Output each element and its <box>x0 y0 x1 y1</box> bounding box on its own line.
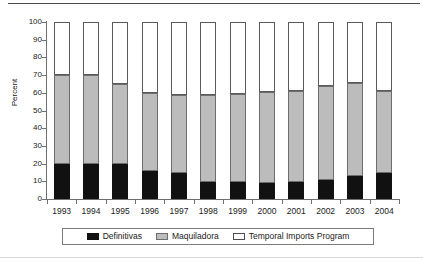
x-tick-label: 2003 <box>339 206 371 216</box>
black-square-icon <box>87 233 99 240</box>
bar-1993[interactable] <box>54 22 70 199</box>
x-tick-label: 1999 <box>222 206 254 216</box>
bar-1994[interactable] <box>83 22 99 199</box>
segment-temporal-imports-program[interactable] <box>347 22 363 83</box>
x-tick-mark <box>282 200 283 204</box>
x-tick-mark <box>223 200 224 204</box>
segment-temporal-imports-program[interactable] <box>259 22 275 92</box>
segment-maquiladora[interactable] <box>112 84 128 164</box>
segment-definitivas[interactable] <box>112 164 128 199</box>
segment-maquiladora[interactable] <box>171 95 187 173</box>
segment-definitivas[interactable] <box>171 173 187 199</box>
segment-temporal-imports-program[interactable] <box>200 22 216 95</box>
y-tick-mark <box>42 146 46 147</box>
chart-figure: Percent 1009080706050403020100 199319941… <box>0 0 423 262</box>
y-tick-mark <box>42 199 46 200</box>
segment-maquiladora[interactable] <box>200 95 216 182</box>
segment-maquiladora[interactable] <box>142 93 158 171</box>
segment-definitivas[interactable] <box>318 180 334 199</box>
segment-maquiladora[interactable] <box>259 92 275 183</box>
segment-maquiladora[interactable] <box>318 86 334 181</box>
segment-temporal-imports-program[interactable] <box>288 22 304 91</box>
segment-temporal-imports-program[interactable] <box>54 22 70 75</box>
x-tick-mark <box>135 200 136 204</box>
bar-2002[interactable] <box>318 22 334 199</box>
segment-definitivas[interactable] <box>230 182 246 199</box>
x-tick-mark <box>399 200 400 204</box>
segment-temporal-imports-program[interactable] <box>112 22 128 84</box>
chart-legend: DefinitivasMaquiladoraTemporal Imports P… <box>62 228 374 245</box>
x-tick-label: 2000 <box>251 206 283 216</box>
x-tick-mark <box>370 200 371 204</box>
x-tick-mark <box>47 200 48 204</box>
x-tick-label: 1994 <box>75 206 107 216</box>
segment-definitivas[interactable] <box>142 171 158 199</box>
bar-1998[interactable] <box>200 22 216 199</box>
legend-label: Definitivas <box>103 232 142 241</box>
segment-temporal-imports-program[interactable] <box>83 22 99 75</box>
segment-temporal-imports-program[interactable] <box>171 22 187 95</box>
x-tick-label: 1995 <box>104 206 136 216</box>
stacked-bar-chart: Percent 1009080706050403020100 199319941… <box>0 0 423 262</box>
y-tick-label: 10 <box>14 177 42 185</box>
x-tick-label: 2004 <box>368 206 400 216</box>
y-tick-mark <box>42 93 46 94</box>
segment-maquiladora[interactable] <box>376 91 392 173</box>
segment-definitivas[interactable] <box>376 173 392 199</box>
segment-definitivas[interactable] <box>200 182 216 199</box>
y-tick-mark <box>42 181 46 182</box>
y-tick-label: 100 <box>14 18 42 26</box>
segment-maquiladora[interactable] <box>230 94 246 183</box>
y-tick-label: 60 <box>14 89 42 97</box>
x-tick-label: 2002 <box>310 206 342 216</box>
segment-maquiladora[interactable] <box>54 75 70 164</box>
x-tick-mark <box>106 200 107 204</box>
x-tick-mark <box>194 200 195 204</box>
segment-definitivas[interactable] <box>288 182 304 199</box>
y-tick-label: 80 <box>14 53 42 61</box>
segment-maquiladora[interactable] <box>288 91 304 182</box>
bar-2001[interactable] <box>288 22 304 199</box>
x-tick-mark <box>252 200 253 204</box>
x-tick-mark <box>311 200 312 204</box>
bar-1999[interactable] <box>230 22 246 199</box>
segment-temporal-imports-program[interactable] <box>376 22 392 91</box>
bar-2000[interactable] <box>259 22 275 199</box>
y-tick-label: 30 <box>14 142 42 150</box>
x-tick-label: 1997 <box>163 206 195 216</box>
y-tick-label: 40 <box>14 124 42 132</box>
segment-temporal-imports-program[interactable] <box>230 22 246 94</box>
segment-maquiladora[interactable] <box>347 83 363 176</box>
x-tick-mark <box>164 200 165 204</box>
segment-temporal-imports-program[interactable] <box>318 22 334 86</box>
x-tick-mark <box>340 200 341 204</box>
legend-label: Maquiladora <box>172 232 219 241</box>
y-tick-mark <box>42 164 46 165</box>
segment-temporal-imports-program[interactable] <box>142 22 158 93</box>
y-tick-mark <box>42 22 46 23</box>
x-tick-label: 1993 <box>46 206 78 216</box>
segment-definitivas[interactable] <box>347 176 363 199</box>
y-tick-mark <box>42 40 46 41</box>
bar-1995[interactable] <box>112 22 128 199</box>
bar-1996[interactable] <box>142 22 158 199</box>
plot-area <box>47 22 399 199</box>
bar-2003[interactable] <box>347 22 363 199</box>
y-tick-label: 20 <box>14 160 42 168</box>
x-tick-label: 1996 <box>134 206 166 216</box>
legend-item[interactable]: Temporal Imports Program <box>233 232 350 241</box>
x-tick-label: 2001 <box>280 206 312 216</box>
gray-square-icon <box>156 233 168 240</box>
segment-maquiladora[interactable] <box>83 75 99 163</box>
segment-definitivas[interactable] <box>83 164 99 199</box>
bar-1997[interactable] <box>171 22 187 199</box>
segment-definitivas[interactable] <box>259 183 275 199</box>
legend-item[interactable]: Maquiladora <box>156 232 219 241</box>
bar-2004[interactable] <box>376 22 392 199</box>
y-tick-mark <box>42 111 46 112</box>
y-tick-label: 90 <box>14 36 42 44</box>
segment-definitivas[interactable] <box>54 164 70 199</box>
y-tick-mark <box>42 57 46 58</box>
y-tick-label: 0 <box>14 195 42 203</box>
legend-item[interactable]: Definitivas <box>87 232 142 241</box>
